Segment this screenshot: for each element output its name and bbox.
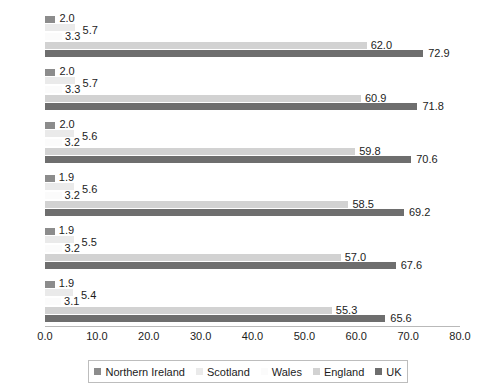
- bar-group: 20261.95.63.258.569.2: [45, 167, 460, 220]
- bar-value-label: 3.3: [65, 84, 80, 95]
- bar-northern-ireland[interactable]: [45, 122, 55, 129]
- bar-uk[interactable]: [45, 315, 385, 322]
- bar-value-label: 1.9: [59, 278, 74, 289]
- bar-group: 20211.95.53.257.067.6: [45, 220, 460, 273]
- bar-row: [45, 201, 460, 208]
- bar-row: [45, 122, 460, 129]
- bar-row: [45, 156, 460, 163]
- x-axis-tick-label: 20.0: [138, 330, 159, 342]
- legend-item[interactable]: Scotland: [196, 366, 250, 378]
- legend-item[interactable]: Northern Ireland: [94, 366, 185, 378]
- bar-value-label: 3.2: [65, 190, 80, 201]
- bar-value-label: 58.5: [352, 199, 373, 210]
- bar-england[interactable]: [45, 148, 355, 155]
- bar-row: [45, 289, 460, 296]
- x-axis-tick-label: 0.0: [37, 330, 52, 342]
- bar-value-label: 2.0: [59, 66, 74, 77]
- bar-england[interactable]: [45, 42, 367, 49]
- legend-item[interactable]: England: [313, 366, 364, 378]
- bar-row: [45, 24, 460, 31]
- bar-uk[interactable]: [45, 209, 404, 216]
- bar-wales[interactable]: [45, 86, 62, 93]
- bar-value-label: 55.3: [336, 305, 357, 316]
- bar-row: [45, 262, 460, 269]
- legend-label: Northern Ireland: [105, 366, 185, 378]
- bar-row: [45, 148, 460, 155]
- x-axis-tick-label: 80.0: [449, 330, 470, 342]
- bar-group: 20362.05.73.360.971.8: [45, 61, 460, 114]
- bar-northern-ireland[interactable]: [45, 228, 55, 235]
- bar-row: [45, 228, 460, 235]
- bar-row: [45, 139, 460, 146]
- bar-row: [45, 77, 460, 84]
- bar-wales[interactable]: [45, 298, 61, 305]
- bar-value-label: 69.2: [409, 207, 430, 218]
- x-axis-tick-label: 60.0: [346, 330, 367, 342]
- bar-row: [45, 42, 460, 49]
- bar-row: [45, 254, 460, 261]
- bar-row: [45, 95, 460, 102]
- bar-value-label: 2.0: [59, 13, 74, 24]
- bar-group: 20312.05.63.259.870.6: [45, 114, 460, 167]
- bar-value-label: 71.8: [422, 101, 443, 112]
- legend-label: Scotland: [207, 366, 250, 378]
- legend-swatch-icon: [313, 368, 320, 375]
- bar-england[interactable]: [45, 307, 332, 314]
- bar-row: [45, 69, 460, 76]
- bar-value-label: 70.6: [416, 154, 437, 165]
- bar-northern-ireland[interactable]: [45, 69, 55, 76]
- legend-swatch-icon: [375, 368, 382, 375]
- bar-value-label: 2.0: [59, 119, 74, 130]
- bar-row: [45, 103, 460, 110]
- bar-value-label: 60.9: [365, 93, 386, 104]
- bar-row: [45, 209, 460, 216]
- bar-northern-ireland[interactable]: [45, 281, 55, 288]
- bar-value-label: 3.2: [65, 137, 80, 148]
- legend-label: Wales: [272, 366, 302, 378]
- legend-label: UK: [386, 366, 401, 378]
- bar-wales[interactable]: [45, 139, 62, 146]
- bar-wales[interactable]: [45, 33, 62, 40]
- bar-row: [45, 281, 460, 288]
- bar-uk[interactable]: [45, 156, 411, 163]
- bar-row: [45, 245, 460, 252]
- bar-row: [45, 16, 460, 23]
- bar-england[interactable]: [45, 201, 348, 208]
- bar-england[interactable]: [45, 254, 341, 261]
- bar-group: 20161.95.43.155.365.6: [45, 273, 460, 326]
- bar-value-label: 3.3: [65, 31, 80, 42]
- bar-value-label: 1.9: [59, 172, 74, 183]
- bar-row: [45, 33, 460, 40]
- bar-value-label: 65.6: [390, 313, 411, 324]
- bar-wales[interactable]: [45, 192, 62, 199]
- legend-label: England: [324, 366, 364, 378]
- bar-northern-ireland[interactable]: [45, 175, 55, 182]
- bar-england[interactable]: [45, 95, 361, 102]
- bar-value-label: 57.0: [345, 252, 366, 263]
- bar-row: [45, 183, 460, 190]
- bar-value-label: 72.9: [428, 48, 449, 59]
- legend-swatch-icon: [196, 368, 203, 375]
- bar-value-label: 59.8: [359, 146, 380, 157]
- x-axis-tick-label: 50.0: [294, 330, 315, 342]
- bar-value-label: 1.9: [59, 225, 74, 236]
- x-axis-tick-label: 10.0: [86, 330, 107, 342]
- bar-uk[interactable]: [45, 50, 423, 57]
- chart-legend: Northern IrelandScotlandWalesEnglandUK: [88, 360, 408, 383]
- legend-item[interactable]: Wales: [261, 366, 302, 378]
- bar-row: [45, 175, 460, 182]
- plot-area: 20412.05.73.362.072.920362.05.73.360.971…: [45, 8, 460, 326]
- bar-uk[interactable]: [45, 103, 417, 110]
- bar-value-label: 67.6: [401, 260, 422, 271]
- bar-northern-ireland[interactable]: [45, 16, 55, 23]
- x-axis-tick-label: 30.0: [190, 330, 211, 342]
- legend-item[interactable]: UK: [375, 366, 401, 378]
- bar-wales[interactable]: [45, 245, 62, 252]
- bar-row: [45, 298, 460, 305]
- bar-row: [45, 236, 460, 243]
- legend-swatch-icon: [94, 368, 101, 375]
- bar-row: [45, 130, 460, 137]
- bar-chart: 20412.05.73.362.072.920362.05.73.360.971…: [0, 0, 494, 391]
- x-axis-line: [45, 326, 460, 327]
- bar-uk[interactable]: [45, 262, 396, 269]
